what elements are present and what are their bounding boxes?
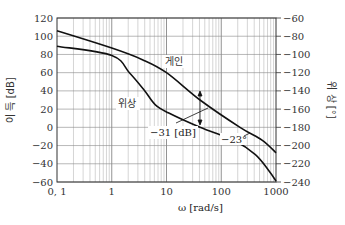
y-tick-left: −20: [32, 140, 53, 151]
gain-label: 게인: [165, 56, 183, 67]
x-tick: 1000: [263, 186, 288, 197]
x-tick: 100: [212, 186, 231, 197]
gain-margin-label: −31 [dB]: [150, 127, 196, 138]
x-tick: 1: [109, 186, 115, 197]
y-tick-left: 40: [40, 85, 53, 96]
phase-label: 위상: [118, 97, 136, 109]
y-tick-right: −220: [283, 158, 310, 169]
y-tick-right: −140: [283, 85, 310, 96]
gain-margin-marker: [176, 91, 208, 125]
y-tick-right: −80: [283, 31, 304, 42]
y-tick-left: 120: [34, 13, 53, 24]
phase-margin-label: −23°: [221, 134, 247, 145]
y-tick-left: 20: [40, 104, 53, 115]
right-axis-ticks: −60−80−100−120−140−160−180−200−220−240: [276, 13, 310, 188]
x-tick: 10: [160, 186, 173, 197]
y-tick-left: 0: [47, 122, 53, 133]
y-tick-right: −180: [283, 122, 310, 133]
y-tick-right: −200: [283, 140, 310, 151]
x-axis-label: ω [rad/s]: [178, 202, 223, 213]
grid-lines: [57, 18, 276, 182]
x-tick: 0, 1: [47, 186, 66, 197]
y-tick-left: −40: [32, 158, 53, 169]
y-tick-right: −160: [283, 104, 310, 115]
y-tick-left: 60: [40, 67, 53, 78]
bode-plot: 120100806040200−20−40−60 −60−80−100−120−…: [0, 0, 345, 225]
y-axis-right-label: 위 상 [°]: [326, 81, 338, 118]
y-tick-right: −100: [283, 49, 310, 60]
y-tick-left: 100: [34, 31, 53, 42]
y-tick-right: −120: [283, 67, 310, 78]
y-tick-left: 80: [40, 49, 53, 60]
y-tick-right: −60: [283, 13, 304, 24]
left-axis-ticks: 120100806040200−20−40−60: [32, 13, 53, 188]
y-axis-left-label: 이 득 [dB]: [5, 77, 16, 122]
x-axis-ticks: 0, 11101001000: [47, 186, 288, 197]
